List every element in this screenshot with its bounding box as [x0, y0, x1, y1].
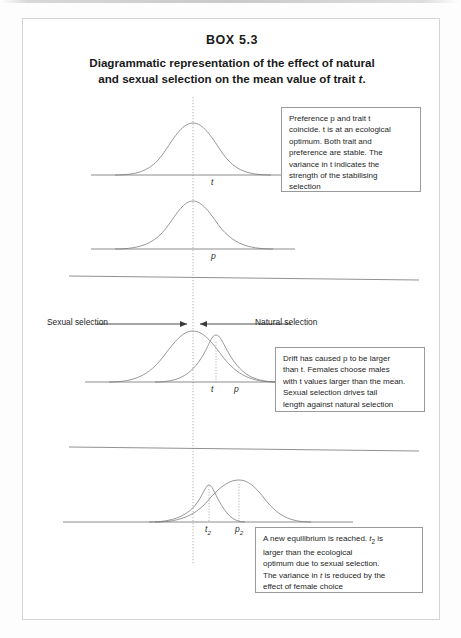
box-subtitle-line2-pre: and sexual selection on the mean value o…	[98, 72, 358, 85]
curve-label-t-panel1: t	[211, 177, 213, 187]
callout-1-line-4: variance in t indicates the	[289, 160, 379, 169]
curve-preference-p-panel2	[155, 335, 279, 382]
callout-1-line-1: coincide. t is at an ecological	[289, 125, 391, 134]
callout-2-line-1: than t. Females choose males	[283, 365, 390, 374]
callout-1-line-2: optimum. Both trait and	[289, 137, 372, 146]
curve-label-p-panel2: p	[234, 384, 239, 394]
sexual-selection-arrow	[97, 321, 187, 327]
box-subtitle: Diagrammatic representation of the effec…	[47, 55, 417, 87]
curve-trait-t-panel2	[109, 331, 277, 382]
callout-1-line-5: strength of the stabilising	[289, 171, 378, 180]
callout-box-new-equilibrium: A new equilibrium is reached. t2 is larg…	[255, 527, 423, 593]
curve-trait-t2-panel3	[149, 485, 245, 522]
callout-1-line-6: selection	[289, 182, 321, 191]
curve-label-p2-panel3: p2	[235, 524, 243, 536]
callout-3-line-3: The variance in t is reduced by the	[263, 571, 385, 580]
scan-edge	[0, 0, 461, 3]
page-canvas: BOX 5.3 Diagrammatic representation of t…	[0, 0, 461, 638]
callout-3-line-0: A new equilibrium is reached. t2 is	[263, 534, 383, 543]
callout-3-line-2: optimum due to sexual selection.	[263, 559, 380, 568]
callout-2-line-4: length against natural selection	[283, 400, 393, 409]
box-subtitle-line2-post: .	[362, 72, 365, 85]
curve-preference-p2-panel3	[155, 480, 311, 522]
box-title: BOX 5.3	[23, 33, 441, 47]
panel-divider-1	[69, 276, 419, 280]
label-natural-selection: Natural selection	[255, 317, 317, 327]
callout-1-line-0: Preference p and trait t	[289, 114, 370, 123]
callout-2-line-0: Drift has caused p to be larger	[283, 354, 390, 363]
curve-label-t-panel2: t	[211, 384, 213, 394]
callout-3-line-4: effect of female choice	[263, 582, 343, 591]
curve-trait-t-panel1	[115, 123, 271, 175]
callout-2-line-2: with t values larger than the mean.	[283, 377, 405, 386]
callout-box-initial-equilibrium: Preference p and trait t coincide. t is …	[281, 107, 421, 192]
callout-2-line-3: Sexual selection drives tail	[283, 388, 377, 397]
callout-box-drift: Drift has caused p to be larger than t. …	[275, 347, 425, 412]
label-sexual-selection: Sexual selection	[47, 317, 108, 327]
curve-preference-p-panel1	[115, 201, 273, 249]
curve-label-p2-subscript: 2	[240, 529, 243, 536]
curve-label-t2-panel3: t2	[205, 524, 211, 536]
callout-1-line-3: preference are stable. The	[289, 148, 383, 157]
callout-3-line-1: larger than the ecological	[263, 548, 352, 557]
box-subtitle-line1: Diagrammatic representation of the effec…	[89, 56, 374, 69]
curve-label-t2-subscript: 2	[207, 529, 210, 536]
box-frame: BOX 5.3 Diagrammatic representation of t…	[22, 18, 440, 620]
curve-label-p-panel1: p	[211, 251, 216, 261]
panel-divider-2	[69, 447, 419, 451]
